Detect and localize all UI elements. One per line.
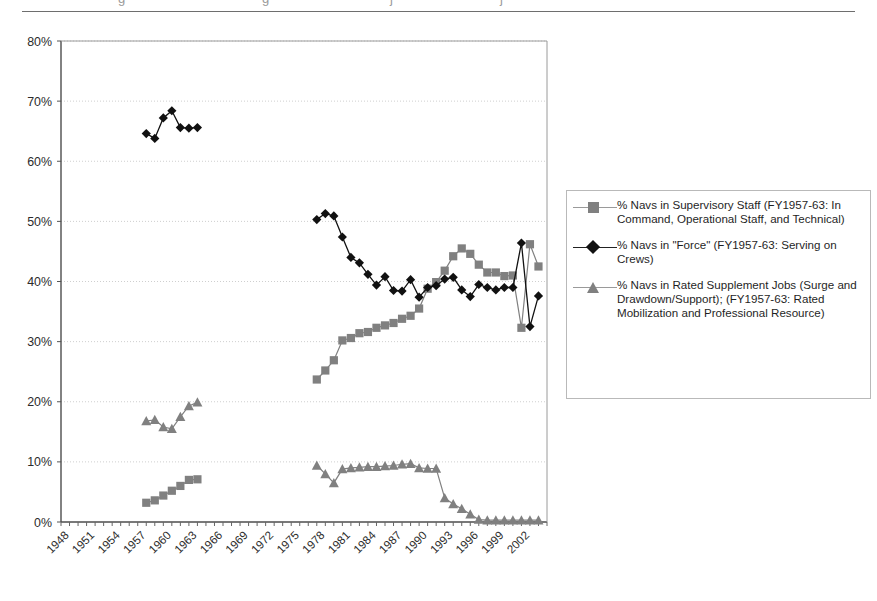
legend-item-force[interactable]: % Navs in "Force" (FY1957-63: Serving on… — [573, 238, 864, 267]
x-tick-label: 1954 — [95, 528, 123, 556]
data-point — [321, 366, 329, 374]
data-point — [142, 129, 151, 138]
data-point — [150, 134, 159, 143]
series-diamond — [142, 106, 543, 331]
legend-item-supervisory-staff[interactable]: % Navs in Supervisory Staff (FY1957-63: … — [573, 198, 864, 227]
y-tick-label: 10% — [27, 455, 52, 469]
legend-item-rated-supplement[interactable]: % Navs in Rated Supplement Jobs (Surge a… — [573, 278, 864, 321]
data-point — [346, 253, 355, 262]
data-point — [364, 328, 372, 336]
data-point — [534, 262, 542, 270]
data-point — [329, 211, 338, 220]
x-tick-label: 1999 — [478, 528, 505, 555]
title-fragment: g — [118, 0, 125, 6]
x-tick-label: 1990 — [402, 528, 429, 555]
data-point — [150, 415, 160, 424]
data-point — [441, 267, 449, 275]
title-fragment: g — [262, 0, 269, 6]
data-point — [330, 356, 338, 364]
data-point — [440, 493, 450, 502]
chart-plot-container: 0%10%20%30%40%50%60%70%80%19481951195419… — [0, 20, 560, 601]
data-point — [321, 209, 330, 218]
x-tick-label: 2002 — [504, 528, 531, 555]
chart-legend: % Navs in Supervisory Staff (FY1957-63: … — [566, 190, 871, 399]
x-tick-label: 1960 — [146, 528, 173, 555]
x-tick-label: 1963 — [171, 528, 198, 555]
data-point — [193, 475, 201, 483]
line-chart: 0%10%20%30%40%50%60%70%80%19481951195419… — [0, 20, 560, 601]
series-line — [317, 214, 539, 327]
data-point — [151, 496, 159, 504]
header-divider-rule — [22, 11, 855, 12]
data-point — [338, 232, 347, 241]
y-tick-label: 80% — [27, 35, 52, 49]
legend-label: % Navs in Rated Supplement Jobs (Surge a… — [617, 278, 864, 321]
data-point — [347, 334, 355, 342]
data-point — [466, 250, 474, 258]
x-tick-label: 1969 — [223, 528, 250, 555]
data-point — [389, 286, 398, 295]
data-point — [517, 324, 525, 332]
data-point — [483, 268, 491, 276]
data-point — [475, 261, 483, 269]
data-point — [338, 336, 346, 344]
x-tick-label: 1966 — [197, 528, 224, 555]
data-point — [159, 491, 167, 499]
data-point — [406, 459, 416, 468]
x-tick-label: 1981 — [325, 528, 352, 555]
y-tick-label: 40% — [27, 275, 52, 289]
x-tick-label: 1957 — [120, 528, 147, 555]
cropped-title-fragments: ggjj — [0, 0, 877, 9]
x-tick-label: 1993 — [427, 528, 454, 555]
data-point — [406, 312, 414, 320]
legend-marker-triangle-icon — [573, 280, 617, 295]
data-point — [500, 283, 509, 292]
data-point — [397, 287, 406, 296]
legend-marker-diamond-icon — [573, 240, 617, 255]
x-tick-label: 1984 — [350, 528, 378, 556]
x-tick-label: 1996 — [453, 528, 480, 555]
data-point — [355, 329, 363, 337]
data-point — [176, 123, 185, 132]
legend-label: % Navs in "Force" (FY1957-63: Serving on… — [617, 238, 864, 267]
data-point — [457, 504, 467, 513]
data-point — [406, 275, 415, 284]
x-tick-label: 1987 — [376, 528, 403, 555]
y-tick-label: 50% — [27, 215, 52, 229]
x-tick-label: 1951 — [69, 528, 96, 555]
data-point — [389, 319, 397, 327]
data-point — [415, 304, 423, 312]
data-point — [142, 499, 150, 507]
data-point — [398, 315, 406, 323]
y-tick-label: 0% — [34, 516, 52, 530]
data-point — [355, 258, 364, 267]
data-point — [500, 272, 508, 280]
data-point — [465, 509, 475, 518]
legend-label: % Navs in Supervisory Staff (FY1957-63: … — [617, 198, 864, 227]
y-tick-label: 60% — [27, 155, 52, 169]
data-point — [381, 321, 389, 329]
title-fragment: j — [500, 0, 503, 6]
data-point — [168, 487, 176, 495]
data-point — [185, 476, 193, 484]
data-point — [449, 252, 457, 260]
x-tick-label: 1972 — [248, 528, 275, 555]
series-triangle — [141, 397, 543, 524]
data-point — [458, 244, 466, 252]
y-tick-label: 20% — [27, 395, 52, 409]
data-point — [372, 324, 380, 332]
x-tick-label: 1975 — [274, 528, 301, 555]
data-point — [448, 499, 458, 508]
y-tick-label: 30% — [27, 335, 52, 349]
data-point — [312, 215, 321, 224]
data-point — [184, 124, 193, 133]
data-point — [517, 238, 526, 247]
data-point — [176, 482, 184, 490]
data-point — [525, 322, 534, 331]
data-point — [474, 515, 484, 524]
data-point — [492, 268, 500, 276]
y-tick-label: 70% — [27, 95, 52, 109]
data-point — [483, 283, 492, 292]
title-fragment: j — [390, 0, 393, 6]
series-line — [317, 244, 539, 379]
